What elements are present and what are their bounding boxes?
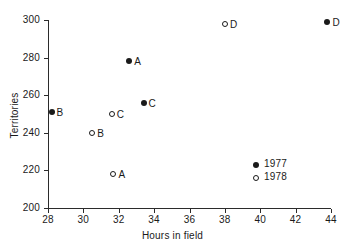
y-tick — [44, 58, 48, 59]
x-tick — [83, 209, 84, 213]
y-tick — [44, 20, 48, 21]
data-point-1977-C — [141, 100, 147, 106]
x-tick-label: 30 — [68, 214, 98, 225]
x-tick-label: 28 — [33, 214, 63, 225]
legend-label: 1977 — [264, 158, 287, 169]
x-tick-label: 40 — [245, 214, 275, 225]
x-tick — [154, 209, 155, 213]
x-tick-label: 32 — [104, 214, 134, 225]
y-tick-label: 200 — [8, 202, 40, 213]
data-point-label: D — [332, 17, 339, 28]
x-tick — [225, 209, 226, 213]
legend-marker-icon — [253, 175, 259, 181]
y-axis-line — [48, 20, 49, 209]
y-tick — [44, 133, 48, 134]
x-axis-title: Hours in field — [0, 230, 345, 241]
x-tick-label: 34 — [139, 214, 169, 225]
data-point-label: A — [134, 56, 141, 67]
x-tick — [119, 209, 120, 213]
data-point-label: C — [149, 98, 156, 109]
x-tick — [296, 209, 297, 213]
data-point-1978-D — [222, 21, 228, 27]
x-tick — [48, 209, 49, 213]
y-tick-label: 220 — [8, 164, 40, 175]
legend-label: 1978 — [264, 171, 287, 182]
y-tick-label: 280 — [8, 52, 40, 63]
scatter-chart: 200220240260280300 283032343638404244 BA… — [0, 0, 345, 250]
data-point-label: A — [118, 169, 125, 180]
data-point-1977-B — [49, 109, 55, 115]
data-point-1978-A — [110, 171, 116, 177]
x-tick — [331, 209, 332, 213]
x-tick-label: 38 — [210, 214, 240, 225]
data-point-1977-A — [126, 58, 132, 64]
data-point-label: B — [57, 107, 64, 118]
x-tick-label: 42 — [281, 214, 311, 225]
x-tick-label: 36 — [175, 214, 205, 225]
data-point-1978-B — [89, 130, 95, 136]
y-tick — [44, 170, 48, 171]
data-point-1977-D — [324, 19, 330, 25]
x-tick — [260, 209, 261, 213]
data-point-1978-C — [109, 111, 115, 117]
x-tick — [190, 209, 191, 213]
y-tick — [44, 95, 48, 96]
data-point-label: C — [117, 109, 124, 120]
x-tick-label: 44 — [316, 214, 345, 225]
y-tick-label: 300 — [8, 14, 40, 25]
data-point-label: B — [97, 128, 104, 139]
legend-marker-icon — [253, 162, 259, 168]
data-point-label: D — [230, 19, 237, 30]
y-axis-title: Territories — [9, 66, 20, 166]
